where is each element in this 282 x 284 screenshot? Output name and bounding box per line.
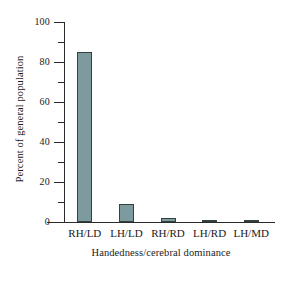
x-tick-label: LH/MD [230,226,272,240]
x-tick-label: LH/RD [189,226,231,240]
bar [161,218,176,222]
y-tick-label: 20 [6,177,50,187]
x-tick-label: LH/LD [106,226,148,240]
y-axis-title: Percent of general population [12,6,28,232]
bar [202,220,217,222]
x-axis-tick-labels: RH/LDLH/LDRH/RDLH/RDLH/MD [64,226,272,242]
x-tick-label: RH/RD [147,226,189,240]
x-tick-label: RH/LD [64,226,106,240]
bar [77,52,92,222]
x-axis-line [47,222,275,223]
y-tick-label: 80 [6,57,50,67]
bar [119,204,134,222]
y-tick-major [54,222,65,223]
bar-chart-figure: Percent of general population 0204060801… [0,0,282,284]
y-tick-label: 0 [6,217,50,227]
bar [244,220,259,222]
y-tick-label: 100 [6,17,50,27]
y-tick-label: 40 [6,137,50,147]
plot-area [64,22,272,222]
x-axis-title: Handedness/cerebral dominance [48,246,274,260]
y-tick-label: 60 [6,97,50,107]
